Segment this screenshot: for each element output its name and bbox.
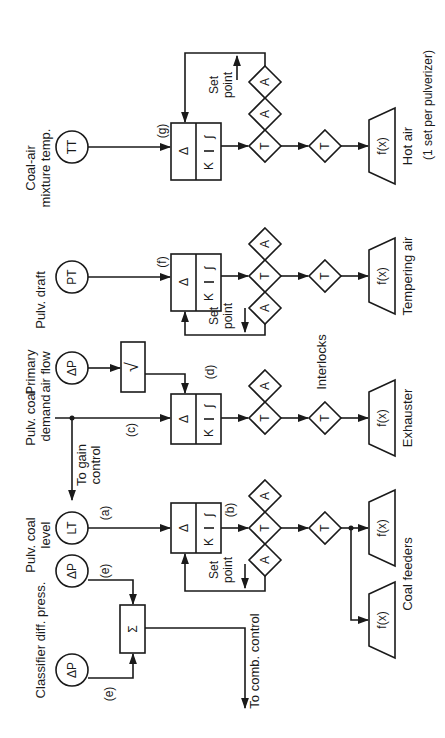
transfer-label: T [318,142,332,150]
demand-label-line1: Pulv. coal [23,390,38,446]
pulverizer-control-diagram: Coal-air mixture temp. TT (g) Δ K ∫ T A … [0,0,445,738]
classifier-label: Classifier diff. press. [33,582,48,699]
to-gain-control-label-line2: control [88,445,103,484]
to-comb-control-line [145,628,245,708]
transfer-label: T [258,524,272,532]
tag-a: (a) [98,506,112,521]
delta-symbol: Δ [177,524,191,532]
function-label: f(x) [375,137,389,154]
per-pulverizer-note: (1 set per pulverizer) [421,50,435,160]
hot-air-label: Hot air [400,126,415,165]
sum-symbol: Σ [126,625,140,632]
function-label: f(x) [375,267,389,284]
to-comb-control-label: To comb. control [247,613,262,708]
dp2-to-summer [88,580,133,604]
function-label: f(x) [375,611,389,628]
transfer-label: T [318,414,332,422]
integral-symbol: ∫ [202,135,216,140]
tt-symbol: TT [65,139,79,154]
lt-label-line1: Pulv. coal [23,517,38,573]
interlocks-label: Interlocks [314,334,329,390]
delta-symbol: Δ [177,278,191,286]
function-label: f(x) [375,409,389,426]
pt-label: Pulv. draft [33,271,48,329]
loop-pulverizer-draft: Pulv. draft PT (f) Δ K ∫ T A A Set point… [33,228,415,390]
transfer-label: T [318,524,332,532]
tag-b: (b) [223,503,237,518]
setpoint-label-line1: Set [207,306,221,325]
pt-symbol: PT [65,269,79,285]
auto-label: A [258,492,272,500]
gain-symbol: K [202,538,216,546]
dp-symbol: ΔP [65,360,79,376]
lt-symbol: LT [65,521,79,535]
gain-symbol: K [202,293,216,301]
function-label: f(x) [375,519,389,536]
coal-feeder-branch [351,528,368,620]
integral-symbol: ∫ [202,266,216,271]
setpoint-label-line2: point [221,71,235,98]
sqrt-to-controller-d [145,374,185,393]
integral-symbol: ∫ [202,513,216,518]
delta-symbol: Δ [177,415,191,423]
tag-c: (c) [124,423,138,437]
tt-label-line2: mixture temp. [38,129,53,208]
auto-label: A [258,240,272,248]
tt-label-line1: Coal-air [23,145,38,191]
integral-symbol: ∫ [202,404,216,409]
auto-label: A [258,556,272,564]
tag-g: (g) [155,124,169,139]
tag-d: (d) [203,365,217,380]
transfer-label: T [318,272,332,280]
auto-label: A [258,304,272,312]
primary-air-label-line1: Primary [23,349,38,394]
transfer-label: T [258,142,272,150]
transfer-label: T [258,272,272,280]
dp1-to-summer [88,654,133,678]
auto-label: A [258,110,272,118]
auto-label: A [258,78,272,86]
dp-symbol: ΔP [65,662,79,678]
tempering-air-label: Tempering air [400,236,415,315]
tag-f: (f) [155,256,169,267]
loop-coal-air-temperature: Coal-air mixture temp. TT (g) Δ K ∫ T A … [23,50,435,207]
dp-symbol: ΔP [65,563,79,579]
setpoint-label-line2: point [221,302,235,329]
gain-symbol: K [202,429,216,437]
tag-e2: (e) [98,564,112,579]
primary-air-label-line2: air flow [38,351,53,393]
delta-symbol: Δ [177,147,191,155]
setpoint-label-line1: Set [207,560,221,579]
lt-label-line2: level [38,522,53,549]
setpoint-label-line2: point [221,556,235,583]
transfer-label: T [258,414,272,422]
gain-symbol: K [202,162,216,170]
sqrt-symbol: √ [122,362,142,372]
demand-label-line2: demand [38,395,53,442]
tag-e1: (e) [102,687,116,702]
setpoint-label-line1: Set [207,75,221,94]
exhauster-label: Exhauster [400,388,415,447]
auto-label: A [258,382,272,390]
coal-feeders-label: Coal feeders [400,537,415,611]
to-gain-control-label-line1: To gain [74,444,89,486]
loop-exhauster: Primary air flow ΔP √ Pulv. coal demand … [23,342,415,500]
